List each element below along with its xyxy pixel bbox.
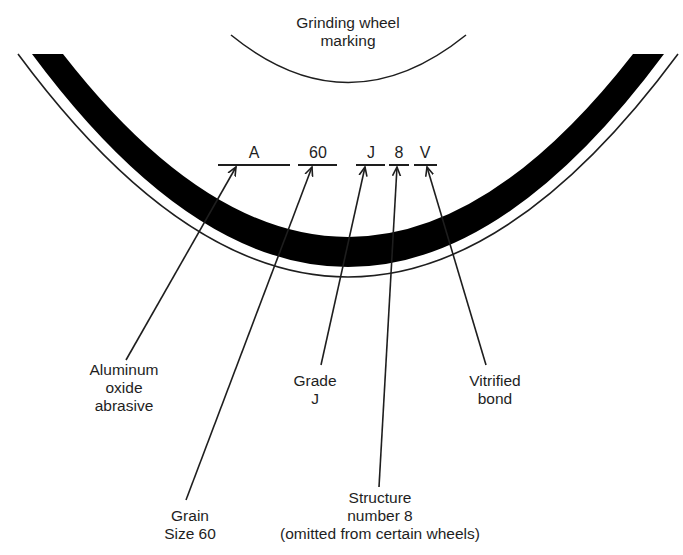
- title-line-1: Grinding wheel: [248, 14, 448, 32]
- label-abrasive-line-2: oxide: [64, 379, 184, 397]
- label-grain-line-2: Size 60: [140, 525, 240, 543]
- grinding-wheel-marking-diagram: Grinding wheel marking A 60 J 8 V Alumin…: [0, 0, 683, 555]
- leader-structure: [379, 167, 397, 487]
- label-structure: Structure number 8 (omitted from certain…: [250, 489, 510, 543]
- label-abrasive-line-1: Aluminum: [64, 361, 184, 379]
- label-structure-line-2: number 8: [250, 507, 510, 525]
- code-60: 60: [302, 144, 334, 162]
- title-line-2: marking: [248, 32, 448, 50]
- wheel-diagram-graphics: [0, 0, 683, 555]
- label-grade-line-2: J: [270, 390, 360, 408]
- label-grain: Grain Size 60: [140, 507, 240, 543]
- label-structure-line-1: Structure: [250, 489, 510, 507]
- code-v: V: [414, 144, 436, 162]
- leader-bond: [427, 167, 486, 365]
- code-a: A: [241, 144, 267, 162]
- label-grain-line-1: Grain: [140, 507, 240, 525]
- label-structure-line-3: (omitted from certain wheels): [250, 525, 510, 543]
- code-8: 8: [388, 144, 410, 162]
- code-j: J: [360, 144, 382, 162]
- diagram-title: Grinding wheel marking: [248, 14, 448, 50]
- label-bond-line-2: bond: [440, 390, 550, 408]
- label-abrasive-line-3: abrasive: [64, 397, 184, 415]
- wheel-band: [32, 54, 664, 267]
- label-grade-line-1: Grade: [270, 372, 360, 390]
- label-bond: Vitrified bond: [440, 372, 550, 408]
- label-abrasive: Aluminum oxide abrasive: [64, 361, 184, 415]
- label-grade: Grade J: [270, 372, 360, 408]
- label-bond-line-1: Vitrified: [440, 372, 550, 390]
